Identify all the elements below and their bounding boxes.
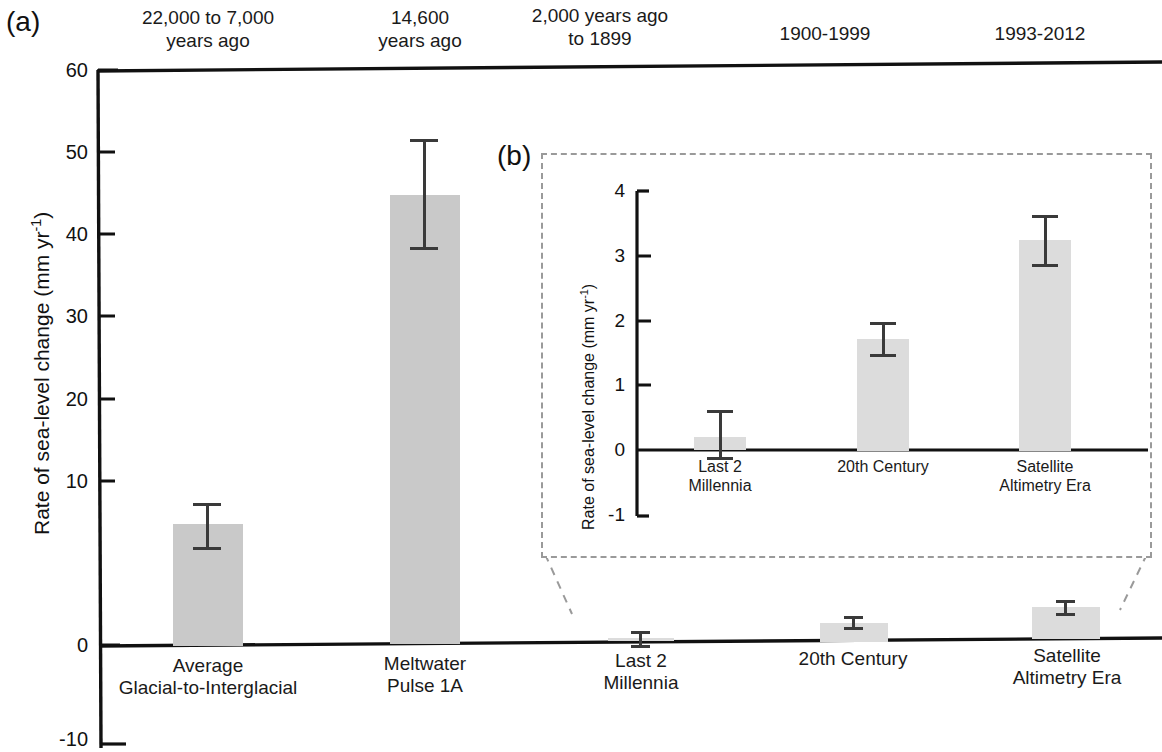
panel-a-left-axis bbox=[98, 70, 101, 748]
panel-b-bar-satellite-altimetry-era bbox=[1019, 240, 1071, 451]
panel-a-y-axis-title-end: ) bbox=[30, 212, 53, 219]
panel-b-category-label-1: 20th Century bbox=[813, 457, 953, 476]
panel-a-y-axis-title-main: Rate of sea-level change (mm yr bbox=[30, 232, 53, 535]
panel-a-errorbar-cap-top-4 bbox=[1056, 600, 1075, 603]
panel-b-ytick-3: 3 bbox=[585, 245, 625, 267]
panel-b-errorbar-cap-top-1 bbox=[870, 322, 896, 325]
panel-a-errorbar-cap-top-0 bbox=[193, 503, 221, 506]
inset-connector-right bbox=[1120, 554, 1147, 610]
panel-b-category-label-0: Last 2 Millennia bbox=[650, 457, 790, 495]
panel-a-bar-meltwater-pulse-1a bbox=[390, 195, 460, 644]
panel-a-errorbar-cap-top-2 bbox=[631, 631, 650, 634]
panel-a-ytick-60: 60 bbox=[42, 59, 88, 82]
figure-root: (a) 22,000 to 7,000 years ago 14,600 yea… bbox=[0, 0, 1162, 752]
panel-a-ytick-neg10: -10 bbox=[36, 728, 88, 751]
panel-b-errorbar-cap-bottom-1 bbox=[870, 354, 896, 357]
panel-b-y-axis-title: Rate of sea-level change (mm yr-1) bbox=[578, 284, 598, 530]
panel-a-ytick-50: 50 bbox=[42, 141, 88, 164]
top-period-label-2: 2,000 years ago to 1899 bbox=[490, 4, 710, 50]
panel-a-category-label-2: Last 2 Millennia bbox=[548, 650, 734, 694]
panel-b-y-axis-title-sup: -1 bbox=[578, 289, 590, 299]
panel-b-category-label-2: Satellite Altimetry Era bbox=[975, 457, 1115, 495]
panel-a-errorbar-cap-top-3 bbox=[844, 616, 863, 619]
panel-a-errorbar-cap-bottom-2 bbox=[631, 645, 650, 648]
panel-a-ytick-0: 0 bbox=[42, 634, 88, 657]
panel-b-errorbar-line-2 bbox=[1044, 216, 1047, 266]
panel-b-errorbar-line-0 bbox=[719, 411, 722, 458]
panel-b-letter: (b) bbox=[497, 140, 531, 172]
panel-a-y-axis-title-sup: -1 bbox=[28, 219, 44, 232]
panel-b-errorbar-line-1 bbox=[882, 323, 885, 355]
panel-a-errorbar-line-0 bbox=[206, 504, 209, 548]
panel-a-y-axis-title: Rate of sea-level change (mm yr-1) bbox=[28, 212, 54, 535]
panel-a-errorbar-line-2 bbox=[639, 632, 642, 646]
panel-a-errorbar-cap-bottom-3 bbox=[844, 627, 863, 630]
panel-b-errorbar-cap-top-2 bbox=[1032, 215, 1058, 218]
top-period-label-3: 1900-1999 bbox=[725, 22, 925, 45]
panel-a-errorbar-cap-bottom-0 bbox=[193, 547, 221, 550]
panel-a-errorbar-cap-bottom-1 bbox=[410, 247, 438, 250]
panel-a-category-label-1: Meltwater Pulse 1A bbox=[330, 653, 520, 697]
panel-b-y-axis-title-end: ) bbox=[580, 284, 597, 289]
panel-a-category-label-4: Satellite Altimetry Era bbox=[972, 645, 1162, 689]
panel-a-errorbar-cap-bottom-4 bbox=[1056, 613, 1075, 616]
panel-b-y-axis-title-main: Rate of sea-level change (mm yr bbox=[580, 299, 597, 530]
panel-a-category-label-0: Average Glacial-to-Interglacial bbox=[98, 655, 318, 699]
panel-a-errorbar-line-1 bbox=[423, 140, 426, 248]
panel-b-ytick-4: 4 bbox=[585, 180, 625, 202]
panel-a-letter: (a) bbox=[6, 6, 40, 38]
top-period-label-0: 22,000 to 7,000 years ago bbox=[98, 6, 318, 52]
panel-a-errorbar-cap-top-1 bbox=[410, 139, 438, 142]
panel-b-errorbar-cap-bottom-2 bbox=[1032, 264, 1058, 267]
inset-connector-left bbox=[545, 554, 572, 614]
top-period-label-4: 1993-2012 bbox=[940, 22, 1140, 45]
panel-a-top-frame bbox=[97, 62, 1162, 71]
panel-a-category-label-3: 20th Century bbox=[758, 648, 948, 670]
panel-b-errorbar-cap-top-0 bbox=[707, 410, 733, 413]
